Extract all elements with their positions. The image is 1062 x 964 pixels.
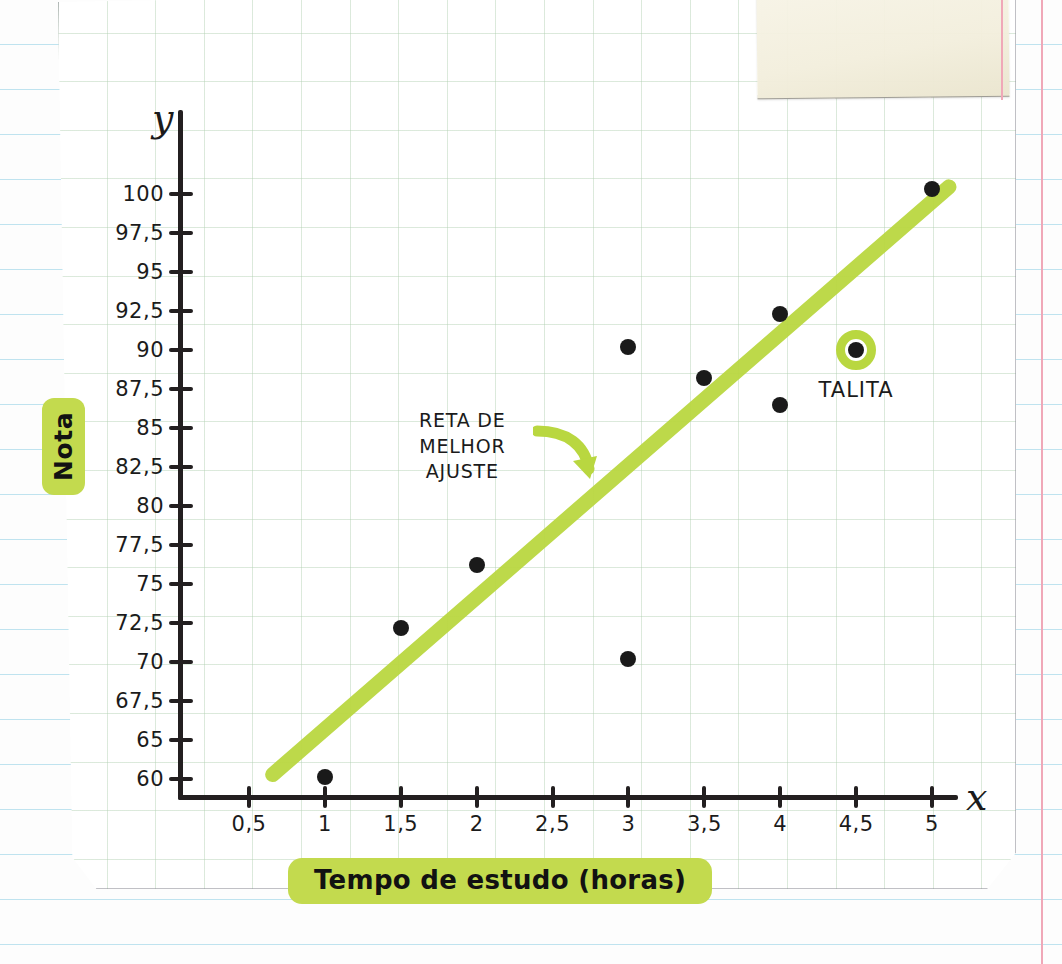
graph-paper-sheet	[58, 0, 1016, 889]
taped-strip-margin-line	[1001, 0, 1003, 100]
x-axis-title: Tempo de estudo (horas)	[288, 858, 712, 904]
y-axis-title: Nota	[42, 398, 85, 495]
taped-paper-strip	[756, 0, 1009, 99]
notebook-margin-line	[1041, 0, 1043, 964]
